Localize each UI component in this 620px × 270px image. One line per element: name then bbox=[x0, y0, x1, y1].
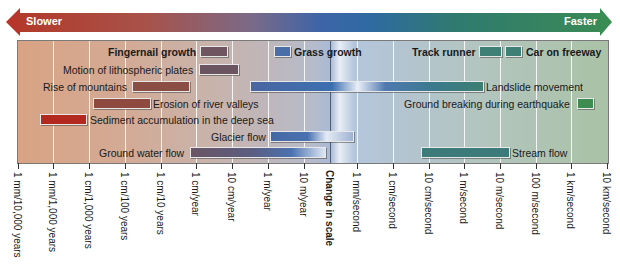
tick-label: 10 cm/second bbox=[423, 172, 434, 234]
chart-panel: Fingernail growth Grass growth Track run… bbox=[17, 40, 609, 164]
label-sediment-accumulation: Sediment accumulation in the deep sea bbox=[90, 114, 274, 126]
label-erosion-river-valleys: Erosion of river valleys bbox=[153, 98, 259, 110]
bar-fingernail-growth bbox=[200, 46, 228, 57]
gridline bbox=[393, 41, 394, 163]
label-car-on-freeway: Car on freeway bbox=[526, 46, 601, 58]
tick-label: 1 m/year bbox=[262, 172, 273, 211]
tick bbox=[18, 163, 19, 169]
bar-grass-growth bbox=[274, 46, 291, 57]
tick-label: 1 cm/1,000 years bbox=[83, 172, 94, 249]
tick-label: 100 m/second bbox=[530, 172, 541, 235]
label-rise-of-mountains: Rise of mountains bbox=[43, 81, 127, 93]
tick bbox=[607, 163, 608, 169]
tick-label: 10 m/second bbox=[494, 172, 505, 229]
gridline bbox=[53, 41, 54, 163]
tick-label: 1 mm/10,000 years bbox=[12, 172, 23, 258]
label-ground-breaking-earthquake: Ground breaking during earthquake bbox=[404, 98, 570, 110]
gridline bbox=[268, 41, 269, 163]
tick-label: 10 km/second bbox=[601, 172, 612, 234]
tick bbox=[500, 163, 501, 169]
tick bbox=[464, 163, 465, 169]
tick-label: 10 cm/year bbox=[226, 172, 237, 221]
label-stream-flow: Stream flow bbox=[512, 147, 567, 159]
tick-label: 1 cm/100 years bbox=[119, 172, 130, 240]
tick-label: 1 cm/10 years bbox=[155, 172, 166, 235]
tick bbox=[571, 163, 572, 169]
tick bbox=[393, 163, 394, 169]
change-in-scale-line bbox=[330, 41, 331, 163]
label-glacier-flow: Glacier flow bbox=[211, 131, 266, 143]
arrow-shaft bbox=[18, 13, 602, 32]
arrow-right-head-icon bbox=[600, 8, 612, 36]
tick bbox=[268, 163, 269, 169]
bar-erosion-river-valleys bbox=[93, 98, 151, 109]
bar-sediment-accumulation bbox=[40, 114, 87, 125]
tick-label: 1 cm/second bbox=[387, 172, 398, 229]
tick bbox=[232, 163, 233, 169]
faster-label: Faster bbox=[564, 15, 597, 27]
tick-label: 1 cm/year bbox=[190, 172, 201, 216]
bar-stream-flow bbox=[421, 147, 510, 158]
tick bbox=[196, 163, 197, 169]
label-landslide-movement: Landslide movement bbox=[486, 81, 583, 93]
gridline bbox=[571, 41, 572, 163]
tick-label: 1 mm/1,000 years bbox=[47, 172, 58, 252]
tick bbox=[304, 163, 305, 169]
gridline bbox=[357, 41, 358, 163]
label-grass-growth: Grass growth bbox=[294, 46, 362, 58]
bar-rise-of-mountains bbox=[132, 81, 190, 92]
bar-ground-breaking-earthquake bbox=[577, 98, 594, 109]
tick-label: 1 km/second bbox=[565, 172, 576, 229]
slower-label: Slower bbox=[26, 15, 62, 27]
tick bbox=[357, 163, 358, 169]
bar-glacier-flow bbox=[270, 131, 354, 142]
tick-label: 10 m/year bbox=[298, 172, 309, 216]
tick bbox=[429, 163, 430, 169]
label-lithospheric-plates: Motion of lithospheric plates bbox=[63, 64, 193, 76]
tick bbox=[161, 163, 162, 169]
change-in-scale-label: Change in scale bbox=[324, 170, 335, 246]
tick-label: 1 m/second bbox=[458, 172, 469, 224]
bar-track-runner bbox=[479, 46, 502, 57]
bar-lithospheric-plates bbox=[199, 64, 239, 75]
tick bbox=[53, 163, 54, 169]
tick bbox=[536, 163, 537, 169]
tick bbox=[89, 163, 90, 169]
label-fingernail-growth: Fingernail growth bbox=[108, 46, 196, 58]
bar-car-on-freeway bbox=[505, 46, 522, 57]
gridline bbox=[304, 41, 305, 163]
tick-label: 1 mm/second bbox=[351, 172, 362, 232]
gridline bbox=[89, 41, 90, 163]
label-ground-water-flow: Ground water flow bbox=[99, 147, 184, 159]
label-track-runner: Track runner bbox=[412, 46, 476, 58]
tick bbox=[125, 163, 126, 169]
bar-ground-water-flow bbox=[190, 147, 326, 158]
bar-landslide-movement bbox=[250, 81, 484, 92]
